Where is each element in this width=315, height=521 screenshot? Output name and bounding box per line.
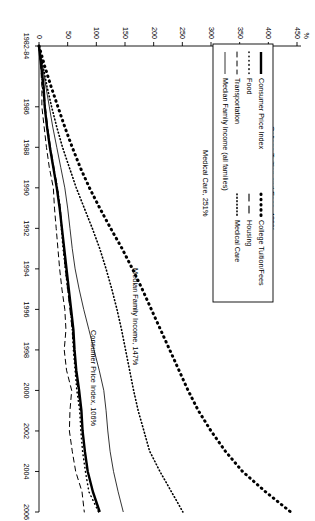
- x-axis-tick-label: 2000: [22, 382, 31, 398]
- x-axis-tick-label: 2004: [22, 463, 31, 479]
- line-chart-figure: 050100150200250300350400450%1982-8419861…: [0, 0, 315, 521]
- x-axis-tick-label: 1994: [22, 261, 31, 277]
- legend-label-legend-item-college-tuition-fees: College Tuition/Fees: [257, 220, 266, 286]
- consumer-price-index-annotation: Consumer Price Index, 106%: [89, 330, 98, 427]
- x-axis-tick-label: 1990: [22, 180, 31, 196]
- legend-label-legend-item-medical-care: Medical Care: [233, 220, 242, 262]
- y-axis-tick-label: 350: [236, 27, 245, 39]
- x-axis-tick-label: 1998: [22, 342, 31, 358]
- median-family-income-annotation: Median Family Income, 147%: [131, 268, 140, 366]
- x-axis-tick-label: 2002: [22, 423, 31, 439]
- x-axis-tick-label: 1996: [22, 301, 31, 317]
- y-axis-tick-label: 50: [64, 31, 73, 39]
- y-axis-tick-label: 250: [178, 27, 187, 39]
- legend-label-legend-item-food: Food: [245, 78, 254, 94]
- legend-label-legend-item-consumer-price-index: Consumer Price Index: [257, 78, 266, 150]
- y-axis-tick-label: 200: [150, 27, 159, 39]
- legend-label-legend-item-transportation: Transportation: [233, 78, 242, 124]
- legend-label-legend-item-housing: Housing: [245, 220, 254, 246]
- y-axis-tick-label: 300: [207, 27, 216, 39]
- x-axis-tick-label: 1988: [22, 139, 31, 155]
- y-axis-unit-label: %: [302, 33, 311, 40]
- x-axis-tick-label: 2006: [22, 504, 31, 520]
- legend-label-legend-item-median-family-income-all-families: Median Family Income (all families): [221, 78, 230, 191]
- y-axis-tick-label: 100: [92, 27, 101, 39]
- y-axis-tick-label: 0: [35, 35, 44, 39]
- x-axis-tick-label: 1982-84: [22, 33, 31, 59]
- x-axis-tick-label: 1986: [22, 99, 31, 115]
- series-line-consumer-price-index: [39, 46, 100, 512]
- y-axis-tick-label: 150: [121, 27, 130, 39]
- chart-plot-area: 050100150200250300350400450%1982-8419861…: [0, 0, 315, 521]
- x-axis-tick-label: 1992: [22, 220, 31, 236]
- y-axis-tick-label: 450: [293, 27, 302, 39]
- chart-figure-rotator: 050100150200250300350400450%1982-8419861…: [0, 0, 315, 521]
- y-axis-tick-label: 400: [264, 27, 273, 39]
- medical-care-annotation: Medical Care, 251%: [201, 150, 210, 217]
